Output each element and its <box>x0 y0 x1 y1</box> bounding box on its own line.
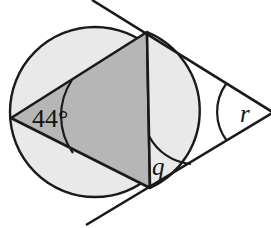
angle-label-q: q <box>152 153 165 180</box>
angle-label-44: 44° <box>32 104 68 133</box>
angle-label-r: r <box>240 100 250 127</box>
geometry-figure: 44° q r <box>0 0 271 228</box>
geometry-canvas: 44° q r <box>0 0 271 228</box>
